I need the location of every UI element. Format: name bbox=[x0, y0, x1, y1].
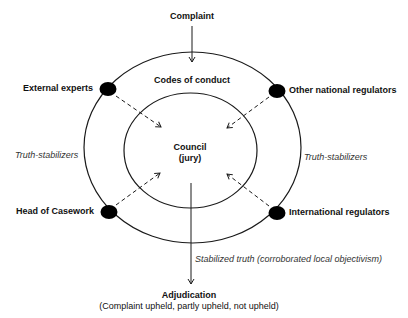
truth-stabilizers-left-label: Truth-stabilizers bbox=[15, 150, 78, 161]
adjudication-label: Adjudication bbox=[162, 290, 217, 301]
other-national-regulators-label: Other national regulators bbox=[289, 85, 397, 96]
jury-label: (jury) bbox=[179, 153, 202, 164]
truth-stabilizers-right-label: Truth-stabilizers bbox=[304, 152, 367, 163]
dashed-arrow-bottom-left bbox=[116, 173, 160, 205]
node-dot-head-of-casework bbox=[101, 205, 118, 219]
stabilized-truth-label: Stabilized truth (corroborated local obj… bbox=[195, 254, 382, 265]
international-regulators-label: International regulators bbox=[289, 207, 390, 218]
node-dot-external-experts bbox=[100, 82, 117, 96]
node-dot-international-regulators bbox=[269, 206, 286, 220]
dashed-arrow-top-right bbox=[227, 97, 269, 128]
adjudication-outcomes-label: (Complaint upheld, partly upheld, not up… bbox=[99, 301, 279, 312]
node-dot-other-national-regulators bbox=[269, 84, 286, 98]
head-of-casework-label: Head of Casework bbox=[16, 206, 94, 217]
external-experts-label: External experts bbox=[23, 83, 93, 94]
codes-of-conduct-label: Codes of conduct bbox=[154, 75, 230, 86]
council-label: Council bbox=[174, 142, 207, 153]
dashed-arrow-top-left bbox=[116, 96, 161, 127]
complaint-label: Complaint bbox=[170, 11, 214, 22]
